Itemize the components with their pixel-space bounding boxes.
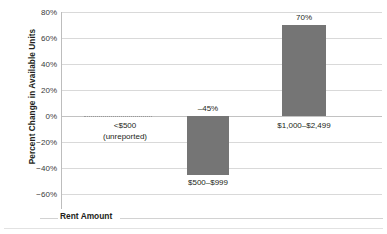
category-label-1000-2499: $1,000–$2,499 xyxy=(277,120,330,131)
bar-chart: Percent Change in Available Units 80% 60… xyxy=(0,0,387,234)
x-axis-rule-right xyxy=(120,218,383,219)
bar-value-1000-2499: 70% xyxy=(296,13,312,22)
y-tick-label-20: 20% xyxy=(5,86,57,95)
bar-500-999[interactable] xyxy=(187,116,229,175)
x-axis-rule-left xyxy=(40,218,58,219)
plot-area: 80% 60% 40% 20% 0% −20% −40% −60% <$500 … xyxy=(62,12,382,194)
x-axis-title: Rent Amount xyxy=(60,211,112,221)
bar-1000-2499[interactable] xyxy=(282,25,326,116)
gridline-minus-60: −60% xyxy=(62,194,382,195)
y-tick-label-minus-40: −40% xyxy=(5,164,57,173)
gridline-60: 60% xyxy=(62,38,382,39)
y-tick-label-80: 80% xyxy=(5,8,57,17)
gridline-80: 80% xyxy=(62,12,382,13)
y-tick-label-minus-20: −20% xyxy=(5,138,57,147)
bar-value-500-999: –45% xyxy=(198,104,218,113)
unreported-line-2: (unreported) xyxy=(103,131,147,142)
gridline-40: 40% xyxy=(62,64,382,65)
gridline-20: 20% xyxy=(62,90,382,91)
bottom-rule xyxy=(4,228,383,229)
category-label-500-999: $500–$999 xyxy=(188,177,228,188)
category-label-unreported: <$500 (unreported) xyxy=(103,120,147,142)
y-tick-label-minus-60: −60% xyxy=(5,190,57,199)
y-tick-label-40: 40% xyxy=(5,60,57,69)
unreported-line-1: <$500 xyxy=(103,120,147,131)
x-axis-title-band: Rent Amount xyxy=(0,209,387,227)
unreported-dotted-line xyxy=(84,116,152,117)
y-tick-label-0: 0% xyxy=(5,112,57,121)
y-tick-label-60: 60% xyxy=(5,34,57,43)
